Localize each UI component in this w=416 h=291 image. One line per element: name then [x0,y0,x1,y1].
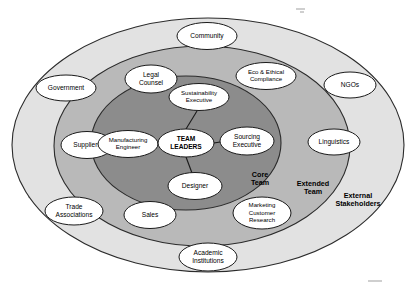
node-trade-associations[interactable]: TradeAssociations [45,197,103,225]
node-manufacturing-engineer-label-line2: Engineer [116,143,140,150]
node-team-leaders-label-line1: TEAM [177,135,196,142]
stakeholder-diagram: Core Team Extended Team External Stakeho… [0,0,416,291]
node-ngos-label-line1: NGOs [341,81,360,88]
node-sourcing-executive-label-line2: Executive [233,141,262,148]
node-trade-associations-label-line1: Trade [66,203,83,210]
node-ngos[interactable]: NGOs [324,72,376,98]
node-government-label-line1: Government [48,84,84,91]
node-legal-counsel-label-line2: Counsel [139,79,164,86]
node-sourcing-executive[interactable]: SourcingExecutive [220,127,274,155]
node-legal-counsel-label-line1: Legal [143,71,160,79]
node-eco-ethical-compliance-label-line1: Eco & Ethical [248,68,284,75]
node-designer-label-line1: Designer [182,182,209,190]
node-community[interactable]: Community [177,23,237,50]
node-team-leaders[interactable]: TEAMLEADERS [158,129,214,157]
node-manufacturing-engineer[interactable]: ManufacturingEngineer [98,131,158,158]
node-trade-associations-label-line2: Associations [55,211,93,218]
node-academic-institutions[interactable]: AcademicInstitutions [179,243,237,271]
node-government[interactable]: Government [36,75,96,101]
node-marketing-customer-research-label-line3: Research [249,216,275,223]
node-team-leaders-label-line2: LEADERS [170,143,202,150]
node-academic-institutions-label-line1: Academic [194,249,224,256]
node-marketing-customer-research[interactable]: MarketingCustomerResearch [233,197,291,229]
node-academic-institutions-label-line2: Institutions [192,257,224,264]
node-eco-ethical-compliance-label-line2: Compliance [250,75,283,82]
node-sales[interactable]: Sales [124,202,176,229]
zone-label-core-team-line2: Team [251,178,269,187]
zone-label-extended-team-line2: Team [304,187,322,196]
node-manufacturing-engineer-label-line1: Manufacturing [109,136,148,143]
node-sales-label-line1: Sales [142,211,159,218]
node-legal-counsel[interactable]: LegalCounsel [125,65,177,93]
node-suppliers-label-line1: Suppliers [73,141,101,149]
node-sustainability-executive-label-line2: Executive [186,96,213,103]
node-marketing-customer-research-label-line1: Marketing [249,201,276,208]
node-eco-ethical-compliance[interactable]: Eco & EthicalCompliance [236,63,296,90]
node-sustainability-executive-label-line1: Sustainability [181,89,218,96]
node-sustainability-executive[interactable]: SustainabilityExecutive [169,84,229,111]
diagram-canvas: Core Team Extended Team External Stakeho… [0,0,416,291]
zone-label-core-team: Core Team [251,170,269,188]
node-sourcing-executive-label-line1: Sourcing [234,133,260,141]
node-linguistics-label-line1: Linguistics [319,138,350,146]
node-community-label-line1: Community [190,32,224,40]
node-designer[interactable]: Designer [168,173,222,200]
node-linguistics[interactable]: Linguistics [308,129,360,155]
zone-label-external-stakeholders-line2: Stakeholders [335,199,380,208]
node-marketing-customer-research-label-line2: Customer [249,209,275,216]
